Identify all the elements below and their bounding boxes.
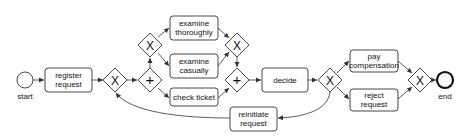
task-register-request: register request [45, 68, 92, 92]
svg-text:X: X [416, 74, 424, 88]
end-label: end [438, 92, 451, 101]
svg-text:reject: reject [364, 91, 384, 100]
task-examine-casually: examine casually [170, 54, 218, 78]
svg-text:casually: casually [180, 66, 209, 75]
svg-text:compensation: compensation [349, 61, 399, 70]
svg-text:+: + [146, 71, 155, 88]
svg-text:decide: decide [273, 76, 297, 85]
xor-gateway-join-end: X [408, 68, 432, 92]
start-label: start [17, 92, 33, 101]
svg-text:request: request [55, 80, 82, 89]
svg-text:request: request [361, 100, 388, 109]
svg-text:+: + [233, 71, 242, 88]
task-reject-request: reject request [350, 89, 398, 111]
task-check-ticket: check ticket [170, 88, 218, 106]
start-event: start [17, 72, 34, 101]
xor-gateway-merge-1: X [103, 68, 127, 92]
svg-text:X: X [233, 39, 241, 53]
end-event: end [437, 72, 453, 101]
svg-text:thoroughly: thoroughly [175, 28, 212, 37]
svg-text:reinitiate: reinitiate [238, 110, 269, 119]
svg-text:examine: examine [179, 57, 210, 66]
svg-text:examine: examine [179, 19, 210, 28]
bpmn-diagram: start end register request examine thoro… [0, 0, 471, 138]
task-pay-compensation: pay compensation [349, 50, 399, 72]
task-decide: decide [262, 68, 308, 92]
svg-text:check ticket: check ticket [173, 93, 216, 102]
svg-text:X: X [111, 74, 119, 88]
svg-text:pay: pay [368, 52, 381, 61]
task-reinitiate-request: reinitiate request [230, 107, 277, 131]
task-examine-thoroughly: examine thoroughly [170, 16, 218, 40]
svg-text:X: X [146, 39, 154, 53]
xor-gateway-join-examine: X [225, 33, 249, 57]
svg-text:X: X [326, 74, 334, 88]
svg-text:request: request [240, 119, 267, 128]
svg-text:register: register [55, 71, 82, 80]
